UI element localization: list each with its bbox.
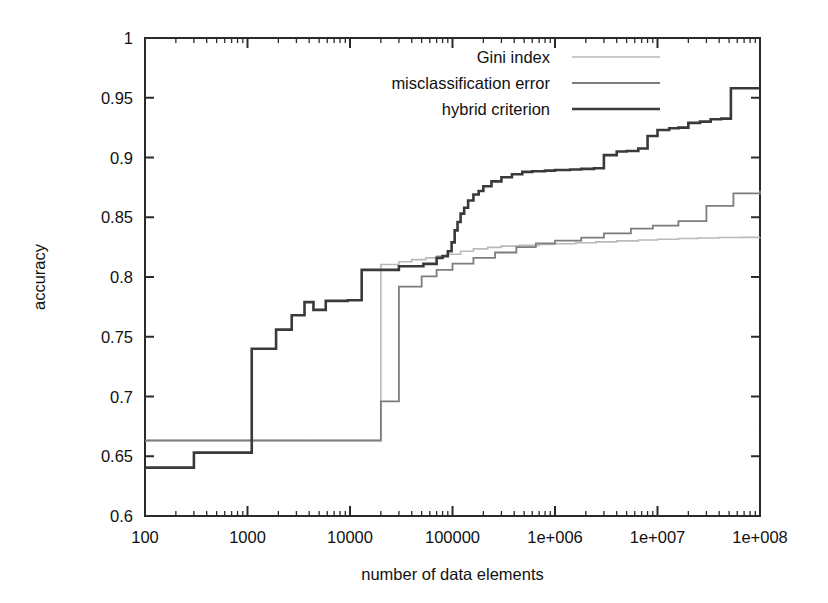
y-tick-label: 1: [124, 29, 133, 47]
chart-canvas: 0.60.650.70.750.80.850.90.95110010001000…: [0, 0, 828, 603]
x-tick-label: 1e+007: [630, 528, 686, 546]
y-tick-label: 0.85: [101, 208, 133, 226]
legend-label: hybrid criterion: [442, 100, 550, 118]
x-tick-label: 1e+006: [527, 528, 583, 546]
y-tick-label: 0.95: [101, 89, 133, 107]
x-tick-label: 100: [131, 528, 159, 546]
y-tick-label: 0.65: [101, 447, 133, 465]
x-tick-label: 100000: [425, 528, 480, 546]
series-line: [145, 191, 760, 441]
y-tick-label: 0.75: [101, 328, 133, 346]
x-tick-label: 10000: [327, 528, 373, 546]
y-tick-label: 0.9: [110, 149, 133, 167]
y-tick-label: 0.8: [110, 268, 133, 286]
y-axis-title: accuracy: [30, 243, 48, 310]
accuracy-vs-data-size-chart: 0.60.650.70.750.80.850.90.95110010001000…: [0, 0, 828, 603]
legend-label: misclassification error: [391, 74, 550, 92]
series-line: [145, 88, 760, 467]
x-tick-label: 1000: [229, 528, 266, 546]
legend-label: Gini index: [477, 48, 551, 66]
x-axis-title: number of data elements: [361, 565, 544, 583]
x-tick-label: 1e+008: [732, 528, 788, 546]
y-tick-label: 0.7: [110, 388, 133, 406]
y-tick-label: 0.6: [110, 507, 133, 525]
